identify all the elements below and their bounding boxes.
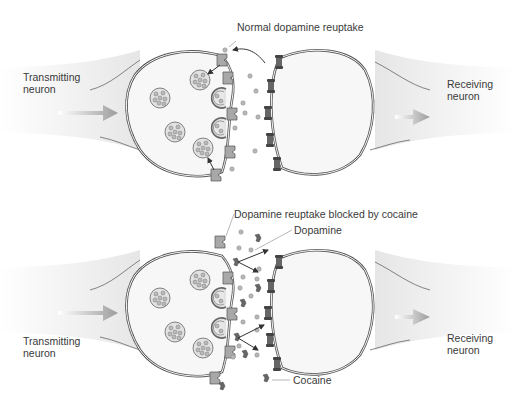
reuptake-arrow (233, 49, 265, 63)
blocked-arrow (238, 262, 258, 272)
cocaine-label: Cocaine (293, 374, 332, 386)
blocked-arrow (238, 250, 268, 262)
label-line: neuron (447, 344, 515, 356)
label-line: neuron (23, 347, 93, 359)
label-line: Receiving (447, 78, 515, 90)
panel-normal-synapse (0, 41, 515, 181)
blocked-arrow (238, 338, 258, 350)
normal-reuptake-label: Normal dopamine reuptake (237, 21, 364, 33)
label-line: Transmitting (23, 71, 93, 83)
blocked-reuptake-label: Dopamine reuptake blocked by cocaine (234, 208, 418, 220)
label-line: neuron (23, 83, 93, 95)
cocaine-legend-icon (263, 374, 269, 382)
dopamine-label: Dopamine (294, 224, 342, 236)
callout-leader (229, 41, 236, 47)
callout-leader (255, 230, 292, 250)
receiving-neuron-label: Receiving neuron (447, 332, 515, 356)
synapse-diagram: Transmitting neuron Receiving neuron Nor… (0, 0, 515, 404)
label-line: neuron (447, 90, 515, 102)
label-line: Receiving (447, 332, 515, 344)
transmitting-neuron-label: Transmitting neuron (23, 71, 93, 95)
panel-cocaine-synapse (0, 214, 515, 390)
callout-leader (226, 214, 234, 236)
reuptake-transporter-icon (211, 169, 221, 181)
label-line: Transmitting (23, 335, 93, 347)
blocked-arrow (238, 325, 264, 338)
transmitting-neuron-label: Transmitting neuron (23, 335, 93, 359)
receiving-neuron-label: Receiving neuron (447, 78, 515, 102)
